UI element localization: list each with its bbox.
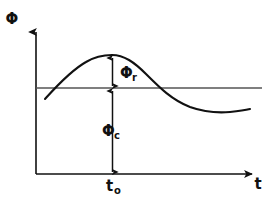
constant-subscript: c [114,130,120,141]
time-marker-symbol: t [106,177,113,195]
y-axis-label: Φ [6,10,19,28]
ripple-label: Φ r [120,64,137,83]
flux-vs-time-diagram: Φ t Φ r Φ c t o [0,0,268,199]
constant-label: Φ c [102,122,120,141]
x-axis-label: t [254,175,261,193]
time-marker-subscript: o [114,185,121,196]
time-marker-label: t o [106,177,121,196]
flux-curve [45,55,250,112]
ripple-symbol: Φ [120,64,133,82]
constant-symbol: Φ [102,122,115,140]
diagram-canvas: Φ t Φ r Φ c t o [0,0,268,199]
ripple-subscript: r [132,72,137,83]
